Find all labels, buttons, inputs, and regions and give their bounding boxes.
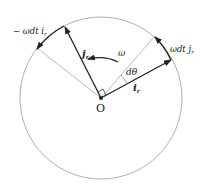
guide-line-rotated-j: [37, 48, 101, 98]
rotating-frame-diagram: O ω dθ ir jr − ωdt ir ωdt jr: [0, 0, 205, 192]
j-r-vector: [65, 27, 101, 98]
omega-rotation-arrow: [88, 58, 118, 62]
dtheta-label: dθ: [126, 67, 138, 77]
origin-point: [99, 96, 103, 100]
omega-dt-j-label: ωdt jr: [170, 44, 194, 55]
omega-label: ω: [118, 48, 126, 58]
origin-label: O: [96, 102, 105, 115]
neg-omega-dt-i-label: − ωdt ir: [13, 26, 47, 37]
omega-dt-j-arc: [155, 37, 171, 60]
j-r-label: jr: [80, 48, 90, 60]
i-r-label: ir: [133, 82, 141, 94]
